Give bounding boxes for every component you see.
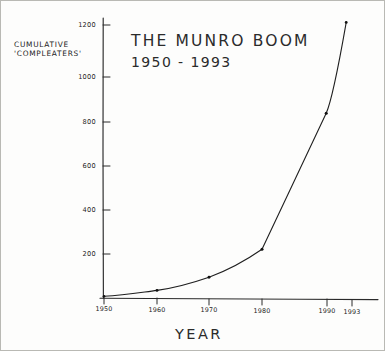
- chart-subtitle: 1950 - 1993: [131, 54, 232, 72]
- y-tick-label-400: 400: [62, 206, 96, 214]
- chart-page: CUMULATIVE 'COMPLEATERS' THE MUNRO BOOM …: [0, 0, 385, 351]
- data-point-1970: [208, 276, 211, 279]
- x-tick-label-1993: 1993: [337, 308, 367, 316]
- y-axis-label: CUMULATIVE 'COMPLEATERS': [14, 40, 82, 59]
- x-tick-label-1970: 1970: [194, 306, 224, 314]
- x-tick-label-1960: 1960: [142, 306, 172, 314]
- data-point-1950: [103, 295, 106, 298]
- y-axis-label-line-2: 'COMPLEATERS': [14, 49, 82, 58]
- chart-title: THE MUNRO BOOM: [131, 32, 310, 51]
- data-point-1980: [261, 248, 264, 251]
- y-tick-marks: [103, 25, 110, 254]
- y-tick-label-1200: 1200: [62, 21, 96, 29]
- y-tick-label-200: 200: [62, 250, 96, 258]
- y-axis-label-line-1: CUMULATIVE: [14, 40, 82, 49]
- x-axis-line: [100, 298, 378, 299]
- data-point-1960: [156, 289, 159, 292]
- y-tick-label-800: 800: [62, 118, 96, 126]
- y-tick-label-600: 600: [62, 162, 96, 170]
- x-tick-label-1950: 1950: [89, 305, 119, 313]
- y-tick-label-1000: 1000: [62, 73, 96, 81]
- data-point-1990: [325, 112, 328, 115]
- x-axis-label: YEAR: [175, 325, 223, 343]
- x-tick-label-1980: 1980: [247, 307, 277, 315]
- data-point-1993: [345, 21, 348, 24]
